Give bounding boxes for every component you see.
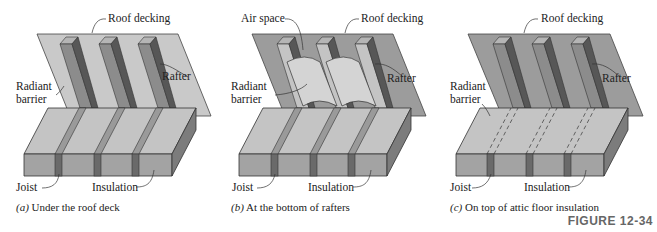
label-radiant-barrier-line1: Radiant [16, 80, 52, 92]
panel-b: Air space Roof decking Rafter Radiant ba… [215, 0, 435, 232]
label-radiant-barrier-line1: Radiant [231, 80, 267, 92]
label-joist: Joist [450, 181, 471, 193]
label-roof-decking: Roof decking [541, 12, 603, 24]
caption-text: Under the roof deck [29, 201, 120, 213]
label-rafter: Rafter [602, 72, 631, 84]
panel-c: Roof decking Rafter Radiant barrier Jois… [430, 0, 657, 232]
roof-diagram-under-deck [0, 0, 220, 232]
caption-b: (b) At the bottom of rafters [231, 201, 350, 213]
panel-a: Roof decking Rafter Radiant barrier Jois… [0, 0, 220, 232]
label-radiant-barrier-line1: Radiant [450, 80, 486, 92]
label-air-space: Air space [241, 12, 285, 24]
label-radiant-barrier-line2: barrier [231, 93, 262, 105]
caption-letter: (c) [450, 201, 462, 213]
label-insulation: Insulation [308, 181, 354, 193]
label-joist: Joist [16, 181, 37, 193]
label-rafter: Rafter [387, 72, 416, 84]
label-joist: Joist [232, 181, 253, 193]
caption-text: At the bottom of rafters [244, 201, 350, 213]
caption-letter: (a) [16, 201, 29, 213]
label-rafter: Rafter [162, 70, 191, 82]
figure-number: FIGURE 12-34 [568, 214, 653, 228]
roof-diagram-bottom-of-rafters [215, 0, 435, 232]
roof-diagram-attic-floor [430, 0, 657, 232]
caption-a: (a) Under the roof deck [16, 201, 120, 213]
label-roof-decking: Roof decking [361, 12, 423, 24]
caption-c: (c) On top of attic floor insulation [450, 201, 599, 213]
label-roof-decking: Roof decking [108, 12, 170, 24]
label-insulation: Insulation [92, 181, 138, 193]
label-insulation: Insulation [524, 181, 570, 193]
caption-text: On top of attic floor insulation [462, 201, 599, 213]
label-radiant-barrier-line2: barrier [450, 93, 481, 105]
label-radiant-barrier-line2: barrier [16, 93, 47, 105]
caption-letter: (b) [231, 201, 244, 213]
